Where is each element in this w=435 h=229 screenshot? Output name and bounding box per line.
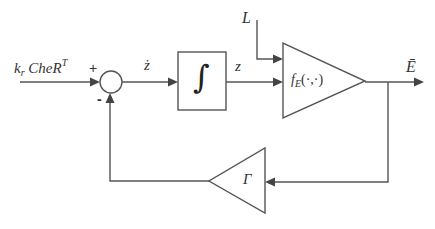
summing-junction <box>100 71 122 93</box>
l-label: L <box>242 10 251 26</box>
input-label-sup: T <box>62 57 68 68</box>
output-label: Ē <box>406 59 416 75</box>
output-signal-wire <box>365 78 424 87</box>
input-label: kr CheRT <box>14 58 67 78</box>
arrowhead-icon <box>265 178 275 187</box>
gamma-label: Γ <box>243 172 252 187</box>
plus-sign: + <box>89 61 97 75</box>
arrowhead-icon <box>414 78 424 87</box>
l-signal-wire <box>257 20 283 64</box>
input-signal-wire <box>20 78 100 87</box>
z-dot-label: ż <box>144 58 150 73</box>
z-label: z <box>235 59 241 74</box>
block-diagram-canvas <box>0 0 435 229</box>
arrowhead-icon <box>168 78 178 87</box>
arrowhead-icon <box>106 93 115 103</box>
function-block-label: fE(·,·) <box>291 73 323 89</box>
arrowhead-icon <box>90 78 100 87</box>
arrowhead-icon <box>273 78 283 87</box>
minus-sign: - <box>97 92 102 106</box>
input-label-k: k <box>14 60 21 76</box>
input-label-cher: CheR <box>25 60 62 76</box>
z-signal-wire <box>226 78 283 87</box>
feedback-gain-gamma <box>209 148 265 213</box>
arrowhead-icon <box>273 55 283 64</box>
fe-label-args: (·,·) <box>301 72 323 87</box>
integral-symbol: ∫ <box>193 61 210 93</box>
z-dot-signal-wire <box>122 78 178 87</box>
